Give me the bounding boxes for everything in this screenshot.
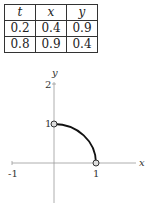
plot-area: x y -1 1 1 2 [0, 60, 148, 203]
cell: 0.4 [36, 21, 67, 37]
table-row: 0.2 0.4 0.9 [5, 21, 98, 37]
endpoint-marker-1-0 [93, 160, 99, 166]
x-axis-label: x [139, 157, 145, 168]
y-tick-label-2: 2 [45, 79, 51, 90]
table-header-row: t x y [5, 5, 98, 21]
endpoint-marker-0-1 [51, 121, 57, 127]
cell: 0.2 [5, 21, 36, 37]
x-tick-label-1: 1 [93, 168, 99, 179]
x-tick-label-neg1: -1 [8, 168, 18, 179]
values-table: t x y 0.2 0.4 0.9 0.8 0.9 0.4 [4, 4, 98, 53]
header-y: y [67, 5, 98, 21]
header-x: x [36, 5, 67, 21]
y-tick-label-1: 1 [45, 118, 51, 129]
cell: 0.9 [36, 37, 67, 53]
table-row: 0.8 0.9 0.4 [5, 37, 98, 53]
cell: 0.8 [5, 37, 36, 53]
y-axis-label: y [51, 67, 58, 78]
quarter-circle-arc [54, 124, 96, 163]
cell: 0.9 [67, 21, 98, 37]
header-t: t [5, 5, 36, 21]
cell: 0.4 [67, 37, 98, 53]
